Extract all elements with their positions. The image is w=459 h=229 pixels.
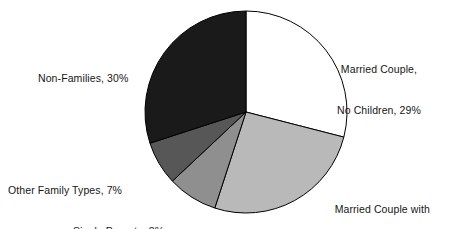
- pie-chart-figure: Married Couple, No Children, 29% Married…: [0, 0, 459, 229]
- slice-label-non-families: Non-Families, 30%: [38, 45, 128, 113]
- slice-label-other-family-types: Other Family Types, 7%: [8, 157, 122, 225]
- slice-label-married-no-children: Married Couple, No Children, 29%: [337, 36, 421, 144]
- slice-label-line-1: Married Couple,: [337, 63, 421, 77]
- slice-label-line-1: Single Parents, 8%: [73, 225, 164, 229]
- slice-label-line-1: Other Family Types, 7%: [8, 184, 122, 198]
- slice-label-married-with-children: Married Couple with Children under 18, 2…: [326, 176, 439, 229]
- slice-label-line-1: Non-Families, 30%: [38, 72, 128, 86]
- pie-slice-group: [145, 11, 347, 213]
- slice-label-line-2: No Children, 29%: [337, 104, 421, 118]
- slice-label-line-1: Married Couple with: [326, 203, 439, 217]
